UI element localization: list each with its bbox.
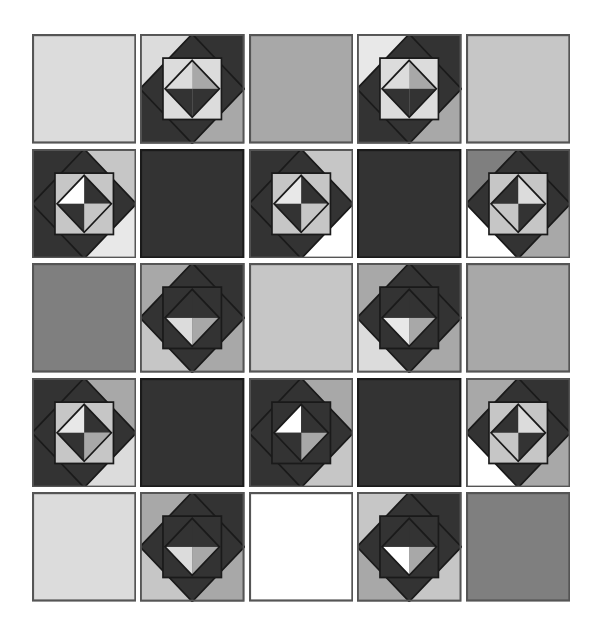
quilt-tile-plain-dark-mid bbox=[32, 263, 136, 373]
quilt-tile-pinwheel-e bbox=[466, 149, 570, 259]
quilt-tile-pinwheel-g bbox=[357, 263, 461, 373]
quilt-tile-plain-dark bbox=[140, 149, 244, 259]
quilt-grid bbox=[32, 34, 570, 602]
quilt-tile-pinwheel-b bbox=[357, 34, 461, 144]
quilt-tile-pinwheel-f bbox=[140, 263, 244, 373]
quilt-tile-pinwheel-k bbox=[140, 492, 244, 602]
quilt-tile-plain-mid-3 bbox=[466, 263, 570, 373]
quilt-tile-pinwheel-c bbox=[32, 149, 136, 259]
quilt-tile-plain-dark-2 bbox=[357, 149, 461, 259]
quilt-tile-plain-light-2 bbox=[466, 34, 570, 144]
quilt-tile-pinwheel-a bbox=[140, 34, 244, 144]
quilt-tile-plain-light bbox=[32, 34, 136, 144]
quilt-tile-pinwheel-l bbox=[357, 492, 461, 602]
quilt-tile-plain-mid-2 bbox=[249, 263, 353, 373]
quilt-tile-plain-dark-3 bbox=[140, 378, 244, 488]
quilt-tile-pinwheel-j bbox=[466, 378, 570, 488]
quilt-tile-pinwheel-h bbox=[32, 378, 136, 488]
quilt-tile-plain-white bbox=[249, 492, 353, 602]
quilt-tile-plain-dark-mid-2 bbox=[466, 492, 570, 602]
quilt-tile-pinwheel-d bbox=[249, 149, 353, 259]
quilt-canvas bbox=[0, 0, 600, 635]
quilt-tile-plain-dark-4 bbox=[357, 378, 461, 488]
quilt-tile-plain-mid bbox=[249, 34, 353, 144]
quilt-tile-pinwheel-i bbox=[249, 378, 353, 488]
quilt-tile-plain-light-3 bbox=[32, 492, 136, 602]
